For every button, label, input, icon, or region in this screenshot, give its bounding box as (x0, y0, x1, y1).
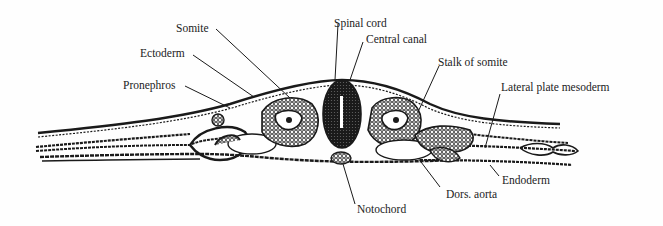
somite-left (262, 98, 318, 146)
central-canal (340, 96, 343, 128)
label-ectoderm: Ectoderm (140, 48, 185, 60)
label-endoderm: Endoderm (502, 175, 550, 187)
cross-section-drawing (0, 0, 663, 226)
spinal-cord (323, 80, 361, 148)
label-spinal-cord: Spinal cord (334, 18, 387, 30)
embryo-cross-section-figure: Somite Ectoderm Pronephros Spinal cord C… (0, 0, 663, 226)
notochord (331, 152, 351, 164)
label-dors-aorta: Dors. aorta (446, 189, 497, 201)
label-central-canal: Central canal (366, 34, 427, 46)
label-stalk-of-somite: Stalk of somite (438, 57, 508, 69)
somite-right (368, 98, 421, 147)
label-somite: Somite (176, 23, 209, 35)
label-pronephros: Pronephros (123, 80, 175, 92)
label-lateral-plate-mesoderm: Lateral plate mesoderm (501, 82, 610, 94)
label-notochord: Notochord (357, 204, 406, 216)
